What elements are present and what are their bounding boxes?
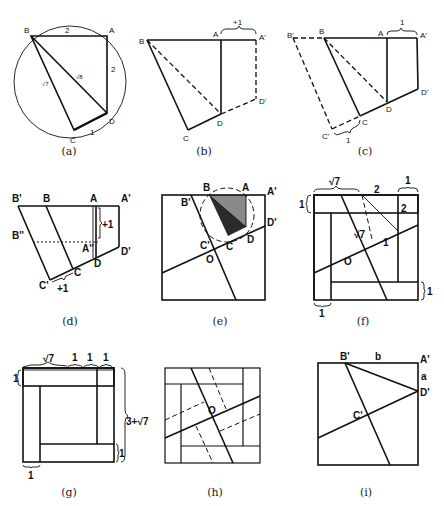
label-sqrt7: √7 bbox=[43, 353, 54, 364]
label-side-top: 2 bbox=[65, 26, 70, 35]
diagram-c: B' B A A' 1 C C' 1 D D' bbox=[290, 0, 444, 165]
panel-c: B' B A A' 1 C C' 1 D D' (c) bbox=[290, 0, 444, 165]
panel-d: B' B A A' B'' A'' +1 D' D C C' +1 (d) bbox=[0, 165, 148, 335]
label-B: B bbox=[319, 27, 324, 36]
label-D: D bbox=[386, 105, 392, 114]
label-B-double-prime: B'' bbox=[12, 230, 24, 241]
panel-g: √7 1 1 1 1 3+√7 1 1 (g) bbox=[0, 330, 148, 506]
diagram-e: B B' A A' D' D C C' O bbox=[145, 165, 293, 335]
label-one-c: 1 bbox=[103, 352, 109, 363]
label-one-bottom: 1 bbox=[319, 308, 325, 319]
caption-e: (e) bbox=[200, 315, 240, 328]
label-one-middle: 1 bbox=[383, 237, 389, 248]
label-one-b: 1 bbox=[87, 352, 93, 363]
label-one-bottom: 1 bbox=[28, 470, 34, 481]
label-two-right: 2 bbox=[401, 203, 407, 214]
label-C: C bbox=[362, 118, 368, 127]
label-D-prime: D' bbox=[267, 217, 277, 228]
diagram-i: B' b A' a D' C' bbox=[290, 330, 444, 506]
label-C-prime: C' bbox=[322, 132, 330, 141]
label-O: O bbox=[206, 254, 214, 265]
label-A-prime: A' bbox=[267, 186, 277, 197]
label-sqrt7-middle: √7 bbox=[354, 229, 365, 240]
label-C: C bbox=[74, 267, 81, 278]
label-B-prime: B' bbox=[181, 197, 191, 208]
label-D: D bbox=[247, 234, 254, 245]
label-O: O bbox=[344, 256, 352, 267]
label-C: C bbox=[226, 241, 233, 252]
label-B-prime: B' bbox=[287, 31, 294, 40]
label-A: A bbox=[109, 26, 115, 35]
panel-a: B A C D 2 2 1 √8 √7 (a) bbox=[0, 0, 148, 165]
label-A: A bbox=[378, 29, 384, 38]
label-A-prime: A' bbox=[121, 193, 131, 204]
label-plus-one-right: +1 bbox=[102, 219, 114, 230]
label-B: B bbox=[24, 26, 29, 35]
label-B-prime: B' bbox=[12, 193, 22, 204]
label-two-top: 2 bbox=[374, 184, 380, 195]
label-B: B bbox=[43, 193, 50, 204]
label-b: b bbox=[375, 351, 381, 362]
label-C: C bbox=[70, 136, 76, 145]
label-A: A bbox=[242, 182, 249, 193]
label-A: A bbox=[90, 193, 97, 204]
label-D: D bbox=[217, 119, 223, 128]
diagram-h: O bbox=[145, 330, 293, 506]
label-side-right: 2 bbox=[111, 65, 116, 74]
diagram-g: √7 1 1 1 1 3+√7 1 1 bbox=[0, 330, 148, 506]
label-one-a: 1 bbox=[72, 352, 78, 363]
panel-h: O (h) bbox=[145, 330, 293, 506]
diagram-b: A A' B C D D' +1 bbox=[145, 0, 293, 165]
caption-d: (d) bbox=[50, 315, 90, 328]
label-diag-sqrt7: √7 bbox=[42, 81, 49, 87]
label-one-right: 1 bbox=[427, 286, 433, 297]
label-plus-one-bottom: +1 bbox=[57, 283, 69, 294]
label-brace-top: 1 bbox=[400, 18, 405, 27]
label-a: a bbox=[421, 371, 427, 382]
panel-f: √7 2 1 1 2 √7 1 O 1 1 (f) bbox=[290, 165, 444, 335]
caption-b: (b) bbox=[184, 145, 224, 158]
label-C-prime: C' bbox=[200, 240, 210, 251]
label-D-prime: D' bbox=[420, 387, 430, 398]
label-one-left: 1 bbox=[13, 373, 19, 384]
label-plus-one: +1 bbox=[233, 18, 243, 27]
label-side-bottom: 1 bbox=[90, 128, 95, 137]
label-one-left: 1 bbox=[299, 199, 305, 210]
label-one-top-right: 1 bbox=[405, 175, 411, 186]
label-O: O bbox=[208, 405, 216, 416]
panel-e: B B' A A' D' D C C' O (e) bbox=[145, 165, 293, 335]
label-sqrt7-top: √7 bbox=[329, 176, 340, 187]
label-C: C bbox=[183, 134, 189, 143]
caption-f: (f) bbox=[343, 315, 383, 328]
label-D: D bbox=[109, 117, 115, 126]
label-A-prime: A' bbox=[420, 31, 427, 40]
label-A-prime: A' bbox=[420, 354, 430, 365]
diagram-d: B' B A A' B'' A'' +1 D' D C C' +1 bbox=[0, 165, 148, 335]
label-B-prime: B' bbox=[340, 351, 350, 362]
label-A-prime: A' bbox=[259, 33, 266, 42]
caption-g: (g) bbox=[49, 486, 89, 499]
label-D-prime: D' bbox=[259, 97, 267, 106]
caption-i: (i) bbox=[346, 486, 386, 499]
label-B: B bbox=[139, 37, 144, 46]
label-C-prime: C' bbox=[39, 280, 49, 291]
label-C-prime: C' bbox=[353, 410, 363, 421]
caption-a: (a) bbox=[49, 145, 89, 158]
caption-h: (h) bbox=[195, 486, 235, 499]
label-diag-sqrt8: √8 bbox=[76, 74, 83, 80]
diagram-f: √7 2 1 1 2 √7 1 O 1 1 bbox=[290, 165, 444, 335]
label-A: A bbox=[213, 30, 219, 39]
caption-c: (c) bbox=[345, 145, 385, 158]
panel-i: B' b A' a D' C' (i) bbox=[290, 330, 444, 506]
label-brace-bottom: 1 bbox=[346, 136, 351, 145]
label-one-right: 1 bbox=[119, 448, 125, 459]
label-A-double-prime: A'' bbox=[82, 243, 94, 254]
panel-b: A A' B C D D' +1 (b) bbox=[145, 0, 293, 165]
label-D: D bbox=[94, 258, 101, 269]
label-B: B bbox=[203, 182, 210, 193]
label-D-prime: D' bbox=[121, 246, 131, 257]
label-D-prime: D' bbox=[421, 88, 429, 97]
